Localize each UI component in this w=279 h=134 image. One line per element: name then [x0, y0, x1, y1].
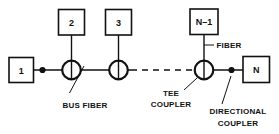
bus-fiber-label: BUS FIBER: [63, 101, 108, 110]
node-3-label: 3: [116, 18, 121, 28]
directional-coupler-label-line-2: COUPLER: [218, 119, 259, 128]
node-n-group: N: [243, 57, 270, 83]
directional-coupler-leader-line: [222, 76, 231, 104]
node-1-label: 1: [19, 66, 24, 76]
tee-coupler-leader-line: [184, 78, 197, 90]
node-n-1-label: N–1: [196, 17, 213, 27]
directional-coupler-dot-right: [228, 67, 234, 73]
node-n-label: N: [253, 65, 260, 75]
tee-coupler-label-line-2: COUPLER: [151, 100, 192, 109]
directional-coupler-label-line-1: DIRECTIONAL: [210, 107, 267, 116]
fiber-label: FIBER: [217, 41, 242, 50]
directional-coupler-dot-left: [39, 67, 45, 73]
annotation-fiber: FIBER: [204, 41, 242, 50]
tee-coupler-label-line-1: TEE: [163, 89, 180, 98]
diagram-canvas: 1 2 3 N–1 N: [0, 0, 279, 134]
annotation-tee-coupler: TEE COUPLER: [151, 78, 197, 109]
node-2-label: 2: [69, 18, 74, 28]
fiber-bus-topology-diagram: 1 2 3 N–1 N: [0, 0, 279, 134]
node-1-group: 1: [9, 58, 34, 83]
annotation-directional-coupler: DIRECTIONAL COUPLER: [210, 76, 267, 128]
